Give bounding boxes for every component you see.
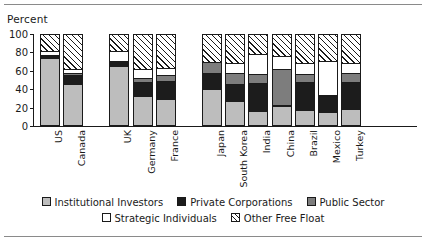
x-tick-label-text: China (286, 130, 296, 157)
x-tick-label-text: Mexico (332, 130, 342, 163)
legend-item-public[interactable]: Public Sector (307, 196, 385, 208)
bar-segment (157, 68, 175, 75)
x-tick-label-text: South Korea (239, 130, 249, 188)
legend-swatch-icon (42, 197, 51, 206)
y-tick-mark (30, 108, 33, 109)
bar-segment (203, 61, 221, 62)
bar-segment (203, 62, 221, 72)
legend-swatch-icon (231, 213, 240, 222)
bar-segment (319, 61, 337, 95)
stacked-bar[interactable] (109, 34, 129, 126)
bar-segment (41, 51, 59, 55)
y-tick-label: 100 (9, 29, 28, 40)
y-tick-label: 80 (15, 47, 28, 58)
bar-segment (249, 54, 267, 73)
x-tick-label-text: UK (123, 130, 133, 143)
bar-segment (249, 74, 267, 83)
x-tick-label-text: India (262, 130, 272, 153)
legend-swatch-icon (102, 213, 111, 222)
y-tick-mark (30, 71, 33, 72)
y-tick-mark (30, 52, 33, 53)
bar-segment (249, 34, 267, 54)
x-tick-label: India (262, 107, 272, 130)
y-tick-mark (30, 34, 33, 35)
bar-segment (342, 73, 360, 82)
legend-item-private[interactable]: Private Corporations (177, 196, 292, 208)
bar-segment (110, 51, 128, 60)
y-tick-label: 0 (22, 121, 28, 132)
x-tick-label: Japan (216, 104, 226, 131)
legend-label: Institutional Investors (55, 197, 164, 208)
legend-swatch-icon (177, 197, 186, 206)
y-tick-mark (30, 89, 33, 90)
bar-segment (296, 34, 314, 63)
legend-label: Other Free Float (244, 213, 325, 224)
bar-segment (41, 34, 59, 51)
bar-segment (41, 55, 59, 59)
legend-row-secondary: Strategic IndividualsOther Free Float (0, 212, 426, 224)
x-tick-label: Canada (77, 94, 87, 130)
bar-segment (110, 61, 128, 67)
bar-segment (64, 73, 82, 76)
x-tick-label-text: Brazil (309, 130, 319, 157)
bar-segment (273, 56, 291, 69)
y-tick-label: 60 (15, 65, 28, 76)
x-tick-label-text: Canada (77, 130, 87, 166)
bar-segment (273, 69, 291, 105)
x-tick-label-text: Germany (147, 130, 157, 174)
bar-segment (296, 74, 314, 81)
y-tick-label: 40 (15, 84, 28, 95)
x-tick-label: France (170, 98, 180, 130)
legend-label: Public Sector (320, 197, 385, 208)
bar-segment (157, 75, 175, 81)
legend-item-freefloat[interactable]: Other Free Float (231, 212, 325, 224)
bar-segment (342, 63, 360, 72)
bar-segment (64, 75, 82, 84)
figure-canvas: Percent 020406080100 USCanadaUKGermanyFr… (0, 0, 426, 242)
bar-segment (134, 69, 152, 78)
bar-segment (41, 59, 59, 125)
x-tick-label-text: France (170, 130, 180, 162)
top-rule (4, 4, 422, 5)
legend-label: Private Corporations (190, 197, 292, 208)
x-tick-label: UK (123, 117, 133, 130)
bar-segment (342, 34, 360, 63)
bar-segment (110, 34, 128, 51)
x-tick-label: Brazil (309, 103, 319, 130)
x-tick-label: Germany (147, 86, 157, 130)
bar-segment (226, 63, 244, 72)
x-tick-label: Turkey (355, 99, 365, 130)
bar-segment (203, 34, 221, 62)
bar-segment (157, 81, 175, 100)
x-tick-label-text: US (54, 130, 64, 143)
legend-swatch-icon (307, 197, 316, 206)
x-tick-label-text: Turkey (355, 130, 365, 161)
bar-segment (203, 73, 221, 90)
x-tick-label: Mexico (332, 97, 342, 130)
bar-segment (134, 78, 152, 82)
bar-segment (319, 34, 337, 61)
y-tick-mark (30, 126, 33, 127)
bar-segment (296, 63, 314, 74)
x-tick-label: US (54, 117, 64, 130)
bar-segment (64, 69, 82, 73)
x-tick-label: South Korea (239, 72, 249, 130)
legend-row-primary: Institutional InvestorsPrivate Corporati… (0, 196, 426, 208)
x-tick-label-text: Japan (216, 130, 226, 157)
bar-segment (226, 34, 244, 63)
legend-label: Strategic Individuals (115, 213, 217, 224)
bar-segment (273, 34, 291, 56)
y-axis-title: Percent (7, 13, 48, 25)
bar-segment (157, 34, 175, 68)
y-tick-label: 20 (15, 102, 28, 113)
legend-item-institutional[interactable]: Institutional Investors (42, 196, 164, 208)
bar-segment (64, 34, 82, 69)
stacked-bar[interactable] (40, 34, 60, 126)
bar-segment (134, 34, 152, 69)
bottom-rule (4, 236, 422, 237)
x-tick-label: China (286, 103, 296, 130)
y-axis-line (33, 34, 34, 126)
bar-segment (319, 95, 337, 96)
legend-item-strategic[interactable]: Strategic Individuals (102, 212, 217, 224)
